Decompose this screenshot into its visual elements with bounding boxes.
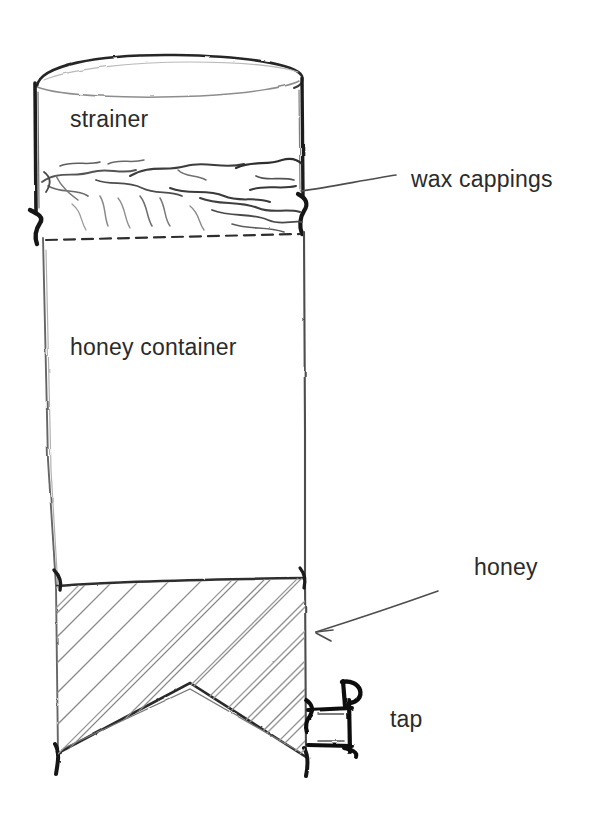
- wax-strand: [190, 206, 204, 230]
- hatch-line: [34, 530, 220, 716]
- wax-strand: [160, 198, 170, 226]
- wax-strand: [250, 186, 296, 190]
- hatch-line: [88, 532, 318, 762]
- container-left-wall: [43, 238, 58, 754]
- wax-strand: [72, 204, 86, 230]
- hatch-line: [228, 658, 362, 792]
- wax-strand: [212, 210, 302, 223]
- tap-upper-bar: [308, 708, 352, 710]
- wax-strand: [178, 170, 206, 180]
- container-bottom-chevron: [58, 683, 306, 757]
- wax-strand: [100, 196, 108, 226]
- wax-strand: [108, 160, 144, 164]
- label-honey: honey: [474, 556, 538, 579]
- leader-lines: [301, 175, 438, 641]
- wax-strand: [44, 172, 50, 192]
- wax-strand: [140, 196, 152, 226]
- strainer-rim-inner: [37, 81, 299, 97]
- strainer-right-wall: [302, 78, 303, 196]
- sketch-page: strainer wax cappings honey container ho…: [0, 0, 607, 832]
- container-right-foot: [304, 748, 308, 776]
- wax-strand: [236, 159, 302, 168]
- honey-container-body: [43, 232, 308, 776]
- wax-strand: [60, 162, 100, 166]
- strainer-left-wall: [35, 83, 36, 213]
- hatch-line: [30, 530, 164, 664]
- strainer-right-wall-shadow: [299, 90, 300, 190]
- wax-cappings-base-line: [46, 234, 300, 240]
- strainer-rim-highlight: [44, 62, 298, 80]
- label-wax-cappings: wax cappings: [411, 168, 553, 191]
- hatch-line: [44, 552, 92, 600]
- honey-hatching: [30, 528, 366, 796]
- strainer-left-wall-shadow: [38, 92, 39, 208]
- tap-spout-stem: [343, 681, 345, 706]
- wax-strand: [118, 198, 130, 228]
- hatch-line: [178, 610, 356, 788]
- tap-outer-post: [349, 700, 350, 752]
- strainer-body: [30, 55, 306, 244]
- wax-strand: [170, 188, 270, 202]
- leader-honey-arrowhead-lower: [316, 633, 331, 641]
- hatch-line: [74, 534, 310, 770]
- hatch-line: [152, 584, 352, 784]
- container-left-foot: [55, 744, 58, 774]
- strainer-left-rim-blob: [30, 210, 41, 244]
- strainer-right-rim-blob: [298, 194, 306, 234]
- hatch-line: [204, 634, 360, 790]
- hatch-line: [52, 530, 282, 760]
- container-bottom-chevron-double: [64, 689, 300, 752]
- label-honey-container: honey container: [70, 336, 237, 359]
- hatch-line: [192, 614, 358, 780]
- tap-wall-flange: [306, 700, 312, 732]
- leader-wax-cappings: [301, 175, 396, 191]
- wax-cappings-mass: [42, 159, 302, 232]
- wax-strand: [232, 224, 284, 232]
- leader-honey-arrowhead-upper: [316, 630, 333, 632]
- tap-valve: [306, 681, 360, 757]
- wax-strand: [56, 176, 78, 200]
- tap-lower-bar: [308, 745, 352, 746]
- wax-strand: [256, 176, 294, 180]
- label-strainer: strainer: [70, 108, 148, 131]
- hatch-line: [252, 682, 364, 794]
- leader-honey: [316, 591, 438, 632]
- label-tap: tap: [390, 708, 423, 731]
- container-right-wall: [304, 232, 306, 756]
